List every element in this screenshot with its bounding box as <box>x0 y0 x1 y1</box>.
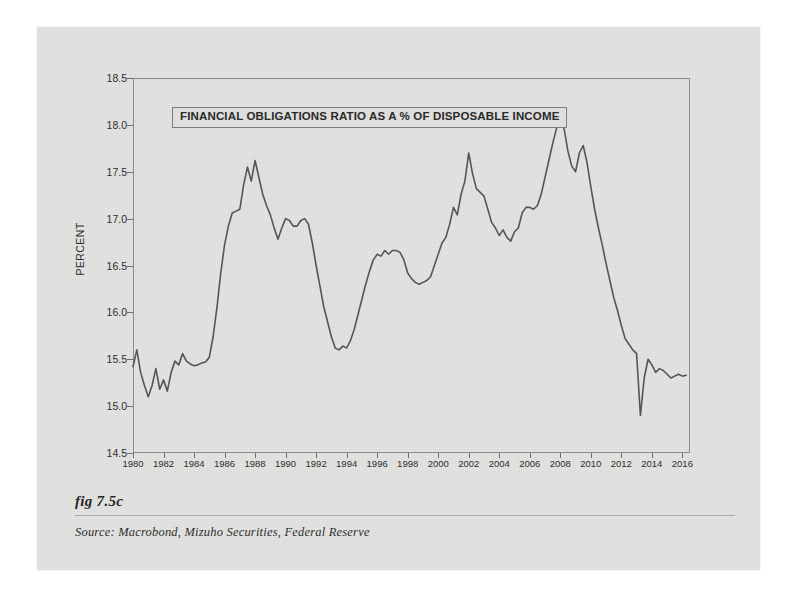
chart-figure: PERCENT 14.515.015.516.016.517.017.518.0… <box>57 45 740 490</box>
scanned-page-card: PERCENT 14.515.015.516.016.517.017.518.0… <box>37 27 760 570</box>
chart-title: FINANCIAL OBLIGATIONS RATIO AS A % OF DI… <box>180 111 559 123</box>
figure-footer: fig 7.5c Source: Macrobond, Mizuho Secur… <box>75 493 735 540</box>
series-line-financial-obligations-ratio <box>133 116 686 416</box>
x-axis-tick-labels: 1980198219841986198819901992199419961998… <box>133 459 690 475</box>
chart-plot-svg <box>133 78 690 453</box>
chart-title-box: FINANCIAL OBLIGATIONS RATIO AS A % OF DI… <box>172 107 567 128</box>
source-credit: Source: Macrobond, Mizuho Securities, Fe… <box>75 516 735 540</box>
figure-number-label: fig 7.5c <box>75 493 735 515</box>
page-root: PERCENT 14.515.015.516.016.517.017.518.0… <box>0 0 800 616</box>
x-axis-tick-label: 2016 <box>662 459 702 469</box>
